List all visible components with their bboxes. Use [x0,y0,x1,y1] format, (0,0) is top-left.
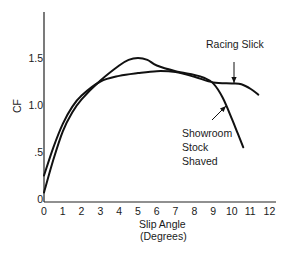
annotation-racing-slick: Racing Slick [206,38,264,50]
annotation-line-shaved: Shaved [182,154,232,168]
annotation-line-showroom: Showroom [182,126,232,140]
annotation-arrows [212,62,237,120]
y-tick-label: 0 [37,193,43,205]
x-tick-label: 4 [116,205,122,217]
x-tick-label: 9 [210,205,216,217]
arrow-showroom-icon [212,106,226,120]
x-tick-label: 1 [60,205,66,217]
annotation-line-stock: Stock [182,140,232,154]
x-tick-label: 3 [97,205,103,217]
x-axis-label-line-2: (Degrees) [140,230,187,242]
y-axis-label: CF [11,99,23,113]
x-tick-label: 10 [226,205,238,217]
y-tick-label: 1.5 [28,52,43,64]
y-tick-label: 1.0 [28,99,43,111]
x-tick-label: 2 [79,205,85,217]
x-tick-label: 6 [154,205,160,217]
arrow-racing-slick-icon [231,62,236,83]
annotation-showroom-stock-shaved: Showroom Stock Shaved [182,126,232,168]
x-axis-label-line-1: Slip Angle [139,218,187,230]
x-tick-label: 5 [135,205,141,217]
x-tick-label: 0 [41,205,47,217]
x-tick-label: 8 [191,205,197,217]
x-tick-label: 7 [173,205,179,217]
y-tick-label: .5 [34,146,43,158]
x-tick-label: 11 [245,205,256,217]
x-tick-label: 12 [264,205,276,217]
x-axis-label: Slip Angle (Degrees) [139,218,187,242]
